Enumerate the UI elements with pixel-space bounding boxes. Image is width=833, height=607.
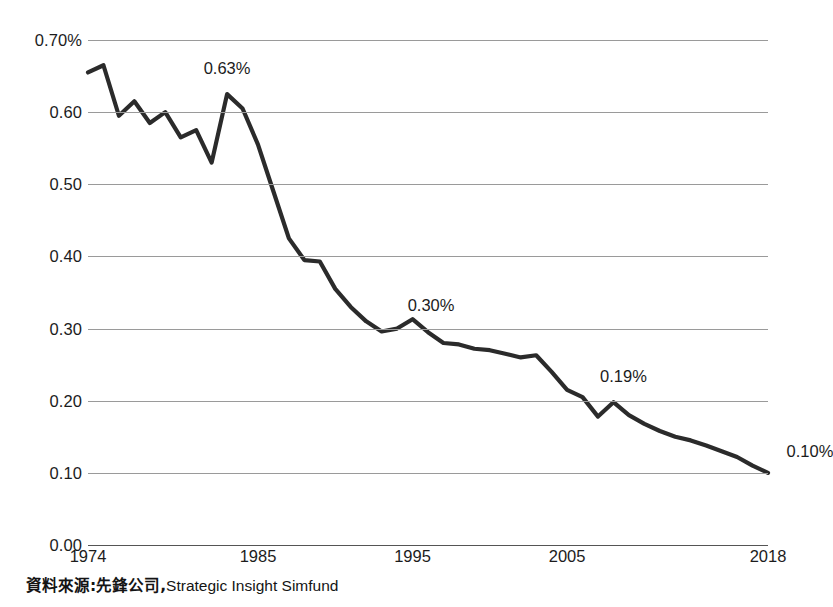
data-point-label: 0.63%	[204, 60, 251, 77]
gridline	[88, 112, 768, 113]
plot-area: 0.63%0.30%0.19%0.10%	[88, 40, 768, 545]
data-point-label: 0.30%	[408, 296, 455, 313]
x-tick-label: 1985	[240, 548, 277, 565]
series-line-chart	[88, 40, 768, 545]
data-point-label: 0.10%	[787, 443, 833, 460]
y-tick-label: 0.30	[8, 321, 82, 338]
x-tick-label: 2018	[750, 548, 787, 565]
x-tick-label: 1995	[394, 548, 431, 565]
gridline	[88, 184, 768, 185]
data-point-label: 0.19%	[600, 368, 647, 385]
y-tick-label: 0.70%	[8, 32, 82, 49]
gridline	[88, 545, 768, 546]
y-tick-label: 0.50	[8, 176, 82, 193]
source-note-cjk: 資料來源:先鋒公司,	[26, 577, 166, 595]
gridline	[88, 329, 768, 330]
x-tick-label: 2005	[549, 548, 586, 565]
source-note: 資料來源:先鋒公司,Strategic Insight Simfund	[26, 578, 338, 595]
y-tick-label: 0.10	[8, 465, 82, 482]
y-tick-label: 0.40	[8, 248, 82, 265]
source-note-latin: Strategic Insight Simfund	[166, 577, 338, 594]
y-tick-label: 0.60	[8, 104, 82, 121]
x-tick-label: 1974	[70, 548, 107, 565]
expense-ratio-line	[88, 65, 768, 473]
gridline	[88, 473, 768, 474]
gridline	[88, 401, 768, 402]
gridline	[88, 256, 768, 257]
y-tick-label: 0.20	[8, 393, 82, 410]
x-axis: 19741985199520052018	[88, 548, 788, 572]
gridline	[88, 40, 768, 41]
y-axis: 0.70%0.600.500.400.300.200.100.00	[0, 40, 82, 545]
